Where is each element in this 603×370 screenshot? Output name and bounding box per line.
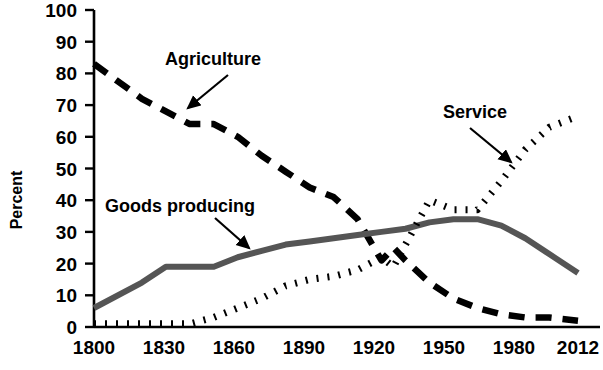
series-line-service — [94, 116, 578, 324]
y-tick-label: 20 — [56, 254, 77, 275]
annotation-arrow-goods-producing — [215, 218, 249, 248]
x-tick-label: 1920 — [353, 337, 395, 358]
y-tick-label: 100 — [45, 0, 77, 21]
x-tick-label: 1800 — [73, 337, 115, 358]
y-axis-title: Percent — [8, 170, 25, 229]
x-tick-label: 1860 — [213, 337, 255, 358]
x-tick-label: 1830 — [143, 337, 185, 358]
y-tick-label: 40 — [56, 190, 77, 211]
x-tick-label: 1950 — [423, 337, 465, 358]
y-tick-label: 50 — [56, 159, 77, 180]
x-tick-label: 2012 — [557, 337, 599, 358]
y-tick-label: 10 — [56, 285, 77, 306]
y-axis: 0102030405060708090100Percent — [8, 0, 94, 338]
x-axis: 18001830186018901920195019802012 — [73, 327, 600, 358]
series-line-goods-producing — [94, 219, 578, 308]
employment-share-line-chart: 0102030405060708090100Percent 1800183018… — [0, 0, 603, 370]
y-tick-label: 60 — [56, 127, 77, 148]
y-tick-label: 30 — [56, 222, 77, 243]
y-tick-label: 80 — [56, 63, 77, 84]
chart-container: 0102030405060708090100Percent 1800183018… — [0, 0, 603, 370]
x-tick-label: 1890 — [283, 337, 325, 358]
annotation-label-service: Service — [443, 102, 507, 122]
annotation-label-goods-producing: Goods producing — [105, 196, 255, 216]
annotation-arrow-service — [470, 128, 511, 162]
y-tick-label: 0 — [66, 317, 77, 338]
y-tick-label: 90 — [56, 32, 77, 53]
annotation-arrow-agriculture — [188, 75, 228, 108]
y-tick-label: 70 — [56, 95, 77, 116]
annotation-label-agriculture: Agriculture — [165, 49, 261, 69]
x-tick-label: 1980 — [493, 337, 535, 358]
